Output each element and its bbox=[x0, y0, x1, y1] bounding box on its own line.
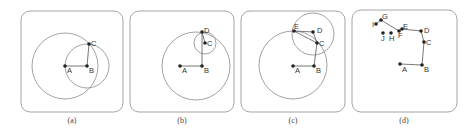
point-label-h: H bbox=[389, 34, 394, 43]
point-label-b: B bbox=[89, 66, 94, 75]
panel-a: ABC bbox=[21, 11, 123, 112]
point-d bbox=[419, 29, 423, 33]
point-label-f: F bbox=[398, 31, 403, 40]
circle-1 bbox=[292, 13, 334, 55]
point-label-d: D bbox=[424, 26, 430, 35]
panel-d: ABCDEFGHIJ bbox=[352, 10, 457, 112]
caption-b: (b) bbox=[167, 116, 197, 125]
point-label-d: D bbox=[204, 26, 210, 35]
point-i bbox=[374, 22, 378, 26]
figure-canvas: ABCABCDABCDEABCDEFGHIJ bbox=[0, 0, 475, 132]
panel-c: ABCDE bbox=[241, 11, 345, 112]
panel-frame bbox=[21, 11, 123, 112]
segment-bc bbox=[422, 42, 424, 65]
point-label-a: A bbox=[182, 66, 187, 75]
segment-de bbox=[294, 31, 313, 32]
point-label-b: B bbox=[316, 66, 321, 75]
segment-fg bbox=[381, 20, 399, 31]
segment-bc bbox=[87, 44, 89, 66]
point-label-a: A bbox=[402, 65, 407, 74]
point-d bbox=[311, 30, 315, 34]
caption-c: (c) bbox=[278, 116, 308, 125]
panel-b: ABCD bbox=[130, 11, 234, 112]
point-label-e: E bbox=[294, 22, 299, 31]
point-label-c: C bbox=[91, 39, 97, 48]
point-label-g: G bbox=[382, 12, 388, 21]
point-label-c: C bbox=[319, 39, 325, 48]
point-label-e: E bbox=[403, 22, 408, 31]
panel-frame bbox=[241, 11, 345, 112]
point-label-d: D bbox=[317, 26, 323, 35]
point-label-j: J bbox=[381, 34, 385, 43]
point-label-b: B bbox=[204, 66, 209, 75]
point-label-i: I bbox=[372, 20, 374, 29]
point-label-c: C bbox=[207, 39, 213, 48]
point-label-b: B bbox=[424, 65, 429, 74]
point-label-a: A bbox=[67, 66, 72, 75]
caption-d: (d) bbox=[389, 116, 419, 125]
point-label-a: A bbox=[295, 66, 300, 75]
caption-a: (a) bbox=[57, 116, 87, 125]
point-label-c: C bbox=[426, 38, 432, 47]
